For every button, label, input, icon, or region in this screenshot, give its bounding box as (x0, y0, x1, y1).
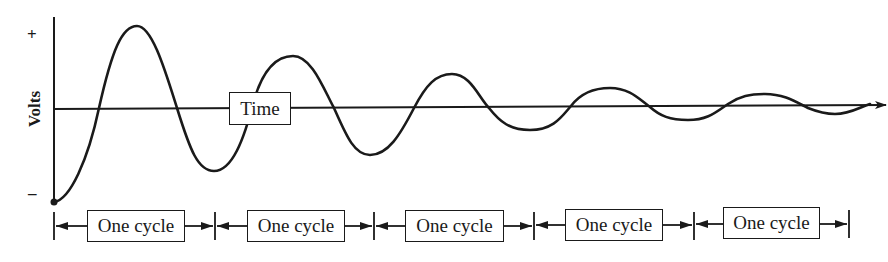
start-point-dot (51, 199, 58, 206)
cycle-label-5: One cycle (723, 207, 820, 239)
cycle-label-2: One cycle (247, 210, 345, 242)
y-axis-positive-label: + (27, 25, 37, 45)
cycle-label-1: One cycle (87, 210, 185, 242)
y-axis-label: Volts (25, 88, 45, 130)
time-axis-line (54, 105, 886, 109)
damped-oscillation-diagram: + Volts – Time One cycle One cycle One c… (0, 0, 888, 262)
y-axis-negative-label: – (28, 184, 37, 204)
waveform-curve (54, 26, 870, 202)
cycle-label-3: One cycle (405, 210, 504, 242)
cycle-label-4: One cycle (565, 209, 663, 241)
time-axis-label: Time (229, 92, 291, 125)
